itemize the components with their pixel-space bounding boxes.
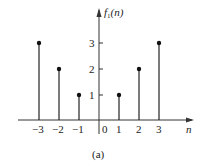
stem-plot: 3 2 1 f1(n) −3 −2 −1 0 1 2 3 n (a) — [0, 0, 204, 168]
y-tick-label: 2 — [89, 63, 95, 75]
x-tick-label: −1 — [72, 123, 84, 135]
x-tick-label: 3 — [156, 123, 162, 135]
x-tick-label: 0 — [102, 123, 108, 135]
x-axis-label: n — [186, 123, 192, 135]
x-tick-label: −3 — [32, 123, 44, 135]
y-axis-arrow-icon — [97, 8, 102, 17]
y-tick-label: 1 — [89, 89, 95, 101]
x-tick-label: −2 — [52, 123, 64, 135]
y-axis-label: f1(n) — [104, 6, 124, 20]
x-axis-arrow-icon — [186, 118, 194, 123]
x-tick-label: 2 — [136, 123, 142, 135]
figure-caption: (a) — [92, 148, 105, 161]
y-tick-label: 3 — [89, 37, 95, 49]
x-tick-label: 1 — [116, 123, 122, 135]
